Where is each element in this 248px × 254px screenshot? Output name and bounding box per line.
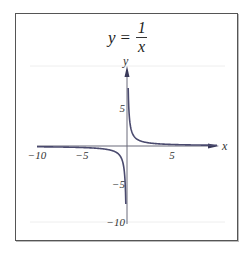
x-tick-label: −5	[76, 149, 89, 161]
x-tick-label: −10	[28, 149, 47, 161]
curve-positive-branch	[128, 88, 217, 145]
x-axis-label: x	[221, 139, 228, 153]
plot-area: xy−10−555−5−10	[0, 0, 248, 254]
tick-labels: xy−10−555−5−10	[28, 54, 228, 228]
y-tick-label: −5	[112, 178, 125, 190]
y-tick-label: 5	[120, 102, 126, 114]
x-tick-label: 5	[169, 149, 175, 161]
y-tick-label: −10	[107, 216, 126, 228]
y-axis-label: y	[122, 54, 129, 68]
